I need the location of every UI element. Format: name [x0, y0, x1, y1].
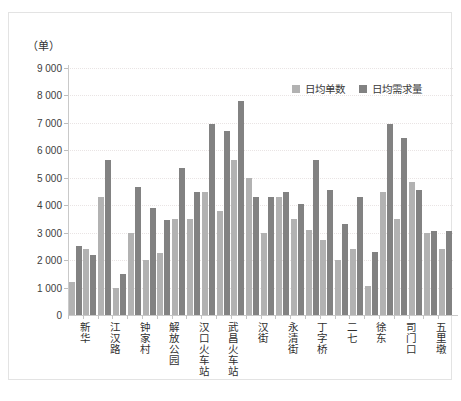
y-axis-tick-mark	[64, 233, 68, 234]
x-axis-tick-mark	[142, 315, 143, 319]
bar-series-1[interactable]	[69, 282, 75, 315]
bar-series-1[interactable]	[350, 249, 356, 315]
bar-group	[83, 68, 98, 315]
bar-series-1[interactable]	[261, 233, 267, 315]
bar-series-2[interactable]	[90, 255, 96, 315]
y-axis-tick-mark	[64, 123, 68, 124]
plot-area	[68, 68, 453, 315]
bar-series-2[interactable]	[209, 124, 215, 315]
y-axis-tick-mark	[64, 68, 68, 69]
bar-group	[424, 68, 439, 315]
bar-series-1[interactable]	[246, 178, 252, 315]
x-axis-tick-mark	[364, 315, 365, 319]
bar-group	[291, 68, 306, 315]
x-axis-category-label: 钟家村	[135, 322, 149, 355]
bar-series-2[interactable]	[150, 208, 156, 315]
bar-group	[335, 68, 350, 315]
bar-series-2[interactable]	[238, 101, 244, 315]
bar-series-2[interactable]	[387, 124, 393, 315]
bar-series-1[interactable]	[143, 260, 149, 315]
y-axis-tick-label: 3 000	[37, 227, 62, 238]
x-axis-tick-mark	[394, 315, 395, 319]
bar-group	[320, 68, 335, 315]
bar-series-2[interactable]	[416, 190, 422, 315]
x-axis-tick-mark	[172, 315, 173, 319]
y-axis-tick-labels: 01 0002 0003 0004 0005 0006 0007 0008 00…	[15, 68, 62, 315]
x-axis-category-label: 汉街	[254, 322, 268, 344]
bar-series-2[interactable]	[431, 231, 437, 315]
x-axis-category-label: 二七	[342, 322, 356, 344]
x-axis-tick-mark	[112, 315, 113, 319]
bar-series-1[interactable]	[113, 288, 119, 315]
y-axis-tick-label: 8 000	[37, 90, 62, 101]
bar-series-1[interactable]	[187, 219, 193, 315]
bar-series-1[interactable]	[394, 219, 400, 315]
x-axis-tick-mark	[157, 315, 158, 319]
y-axis-tick-label: 5 000	[37, 172, 62, 183]
bar-series-1[interactable]	[217, 211, 223, 315]
y-axis-tick-mark	[64, 178, 68, 179]
bar-series-1[interactable]	[424, 233, 430, 315]
y-axis-tick-label: 0	[56, 310, 62, 321]
bar-series-2[interactable]	[327, 190, 333, 315]
x-axis-tick-mark	[201, 315, 202, 319]
bar-series-2[interactable]	[357, 197, 363, 315]
bar-series-1[interactable]	[306, 230, 312, 315]
bar-series-2[interactable]	[194, 192, 200, 316]
x-axis-category-label: 新华	[76, 322, 90, 344]
bar-series-1[interactable]	[231, 160, 237, 315]
bar-series-1[interactable]	[202, 192, 208, 316]
y-axis-tick-mark	[64, 95, 68, 96]
bar-series-2[interactable]	[446, 231, 452, 315]
x-axis-tick-mark	[409, 315, 410, 319]
bar-series-1[interactable]	[335, 260, 341, 315]
bar-series-2[interactable]	[105, 160, 111, 315]
bar-series-1[interactable]	[320, 240, 326, 315]
y-axis-tick-mark	[64, 288, 68, 289]
bar-group	[128, 68, 143, 315]
bar-series-2[interactable]	[135, 187, 141, 315]
bar-series-1[interactable]	[157, 253, 163, 315]
bar-group	[394, 68, 409, 315]
bar-series-1[interactable]	[128, 233, 134, 315]
bar-series-2[interactable]	[179, 168, 185, 315]
x-axis-tick-mark	[349, 315, 350, 319]
bar-series-1[interactable]	[291, 219, 297, 315]
bar-series-1[interactable]	[276, 197, 282, 315]
x-axis-category-label: 五里墩	[431, 322, 445, 355]
bar-series-2[interactable]	[253, 197, 259, 315]
bar-series-1[interactable]	[380, 192, 386, 316]
bar-series-2[interactable]	[76, 246, 82, 315]
bar-series-2[interactable]	[120, 274, 126, 315]
x-axis-tick-mark	[290, 315, 291, 319]
bar-group	[143, 68, 158, 315]
chart-frame: （单） 日均单数 日均需求量 01 0002 0003 0004 0005 00…	[8, 12, 452, 380]
bar-series-1[interactable]	[83, 249, 89, 315]
bar-series-2[interactable]	[224, 131, 230, 315]
x-axis-category-label: 永清街	[283, 322, 297, 355]
bar-series-1[interactable]	[365, 286, 371, 315]
y-axis-tick-label: 4 000	[37, 200, 62, 211]
bar-series-2[interactable]	[298, 204, 304, 315]
bar-series-1[interactable]	[98, 197, 104, 315]
bar-series-2[interactable]	[283, 192, 289, 316]
bar-group	[69, 68, 84, 315]
bar-series-2[interactable]	[372, 252, 378, 315]
x-axis-category-label: 徐东	[372, 322, 386, 344]
bar-series-2[interactable]	[342, 224, 348, 315]
bar-series-2[interactable]	[401, 138, 407, 315]
x-axis-tick-mark	[261, 315, 262, 319]
bar-series-1[interactable]	[409, 182, 415, 315]
y-axis-tick-mark	[64, 150, 68, 151]
y-axis-tick-mark	[64, 260, 68, 261]
bar-series-1[interactable]	[172, 219, 178, 315]
bar-group	[409, 68, 424, 315]
bar-series-2[interactable]	[268, 197, 274, 315]
bar-series-2[interactable]	[164, 220, 170, 315]
x-axis-tick-mark	[320, 315, 321, 319]
x-axis-tick-mark	[98, 315, 99, 319]
bar-series-1[interactable]	[439, 249, 445, 315]
x-axis-tick-mark	[68, 315, 69, 319]
bar-series-2[interactable]	[313, 160, 319, 315]
x-axis-tick-mark	[423, 315, 424, 319]
